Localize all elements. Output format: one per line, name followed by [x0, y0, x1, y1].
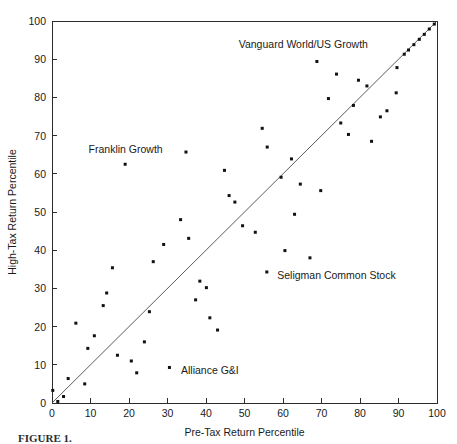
data-point [184, 151, 187, 154]
data-point [395, 91, 398, 94]
data-point [407, 49, 410, 52]
reference-line [52, 21, 437, 403]
data-point [67, 377, 70, 380]
y-tick-label-20: 20 [34, 321, 46, 333]
annotation-label: Seligman Common Stock [277, 269, 396, 281]
data-point [152, 260, 155, 263]
data-point [228, 194, 231, 197]
data-point [130, 359, 133, 362]
annotation-label: Vanguard World/US Growth [239, 38, 368, 50]
data-point [105, 291, 108, 294]
y-tick-label-40: 40 [34, 244, 46, 256]
axis-titles: Pre-Tax Return PercentileHigh-Tax Return… [6, 149, 305, 438]
x-tick-label-70: 70 [316, 407, 328, 419]
data-point [319, 189, 322, 192]
data-point [233, 201, 236, 204]
data-point [283, 249, 286, 252]
data-point [423, 33, 426, 36]
data-point [74, 322, 77, 325]
x-tick-label-100: 100 [428, 407, 446, 419]
data-point [315, 60, 318, 63]
data-point [433, 23, 436, 26]
data-point [266, 146, 269, 149]
data-point [428, 28, 431, 31]
data-point [347, 133, 350, 136]
data-point [168, 366, 171, 369]
y-tick-label-70: 70 [34, 130, 46, 142]
identity-reference-line [52, 21, 437, 403]
y-tick-label-50: 50 [34, 206, 46, 218]
data-point [290, 157, 293, 160]
data-point [385, 109, 388, 112]
figure-container: 0102030405060708090100010203040506070809… [0, 0, 457, 444]
data-point [93, 334, 96, 337]
data-point [241, 224, 244, 227]
data-point [254, 231, 257, 234]
data-point [83, 382, 86, 385]
data-point [111, 266, 114, 269]
data-point [51, 389, 54, 392]
data-point [335, 73, 338, 76]
data-point [62, 395, 65, 398]
annotations: Vanguard World/US GrowthFranklin GrowthS… [89, 38, 397, 376]
data-point [216, 329, 219, 332]
data-point [124, 163, 127, 166]
data-point [352, 104, 355, 107]
data-point [327, 97, 330, 100]
x-tick-label-60: 60 [277, 407, 289, 419]
y-tick-label-10: 10 [34, 359, 46, 371]
data-point [280, 176, 283, 179]
data-point [102, 304, 105, 307]
x-tick-label-40: 40 [200, 407, 212, 419]
data-point [205, 286, 208, 289]
x-tick-label-50: 50 [239, 407, 251, 419]
data-point [162, 243, 165, 246]
data-point [308, 256, 311, 259]
data-point [299, 183, 302, 186]
x-tick-label-30: 30 [162, 407, 174, 419]
y-axis-title: High-Tax Return Percentile [6, 149, 18, 275]
y-tick-label-90: 90 [34, 53, 46, 65]
y-tick-label-100: 100 [28, 15, 46, 27]
tick-labels: 0102030405060708090100010203040506070809… [28, 15, 445, 419]
x-tick-label-10: 10 [85, 407, 97, 419]
x-tick-label-0: 0 [49, 407, 55, 419]
data-point [265, 270, 268, 273]
x-tick-label-20: 20 [123, 407, 135, 419]
data-point [56, 400, 59, 403]
x-tick-label-80: 80 [354, 407, 366, 419]
data-point [187, 237, 190, 240]
data-point [293, 213, 296, 216]
data-point [194, 298, 197, 301]
data-point [86, 347, 89, 350]
data-point [261, 127, 264, 130]
data-point [208, 316, 211, 319]
data-point [198, 280, 201, 283]
y-tick-label-60: 60 [34, 168, 46, 180]
annotation-label: Alliance G&I [181, 364, 239, 376]
figure-number: FIGURE 1. [18, 432, 72, 444]
data-point [357, 79, 360, 82]
scatter-plot: 0102030405060708090100010203040506070809… [0, 0, 457, 444]
data-point [395, 66, 398, 69]
data-point [135, 371, 138, 374]
data-point [339, 121, 342, 124]
data-point [379, 115, 382, 118]
data-point [403, 53, 406, 56]
data-point [412, 43, 415, 46]
data-point [223, 169, 226, 172]
data-point [116, 354, 119, 357]
annotation-label: Franklin Growth [89, 143, 163, 155]
data-point [365, 84, 368, 87]
data-point [370, 140, 373, 143]
y-tick-label-30: 30 [34, 282, 46, 294]
figure-caption: FIGURE 1. [18, 432, 443, 444]
y-tick-label-0: 0 [40, 397, 46, 409]
data-point [179, 218, 182, 221]
data-point [418, 38, 421, 41]
y-tick-label-80: 80 [34, 91, 46, 103]
data-point [148, 310, 151, 313]
x-tick-label-90: 90 [393, 407, 405, 419]
data-point [143, 340, 146, 343]
